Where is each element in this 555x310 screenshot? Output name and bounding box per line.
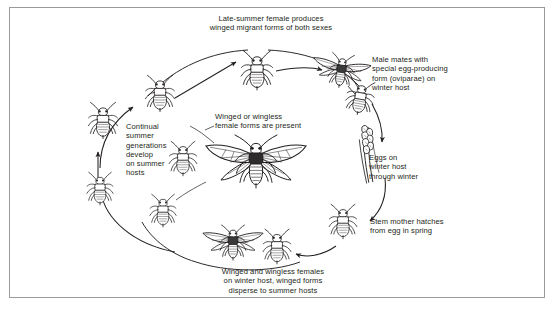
label-winged-or-wingless-females: Winged or wingless female forms are pres… — [215, 112, 333, 131]
leader-line-central-upper — [190, 126, 214, 143]
leader-line-central — [176, 182, 206, 200]
arrow-to-stem-mother — [370, 178, 385, 221]
arrow-to-winter-host-females — [296, 246, 336, 256]
organism-central-winged-female — [206, 135, 306, 188]
organism-summer-pair-right — [150, 194, 176, 227]
label-late-summer-female: Late-summer female produces winged migra… — [186, 14, 356, 33]
organism-top-wingless-female — [241, 51, 273, 90]
arrow-to-eggs — [372, 104, 382, 142]
organism-summer-wingless-lower — [87, 172, 113, 205]
organism-summer-wingless-upper — [88, 102, 117, 138]
organism-summer-winged-migrant — [145, 75, 174, 111]
label-winged-wingless-females: Winged and wingless females on winter ho… — [186, 267, 360, 295]
diagram-canvas — [0, 0, 555, 310]
organism-stem-mother — [329, 204, 357, 238]
aphid-life-cycle-figure: Late-summer female produces winged migra… — [0, 0, 555, 310]
label-continual-summer-generations: Continual summer generations develop on … — [126, 122, 178, 178]
label-eggs-winter-host: Eggs on winter host through winter — [369, 153, 455, 181]
organism-winged-male — [310, 50, 372, 91]
label-male-mates: Male mates with special egg-producing fo… — [372, 55, 484, 92]
cycle-arc-bottom-left — [142, 222, 196, 262]
organism-bottom-winged-female — [203, 225, 263, 260]
label-stem-mother: Stem mother hatches from egg in spring — [370, 217, 476, 236]
leader-line-label-center — [205, 126, 214, 130]
arrow-to-winged-migrants — [276, 68, 322, 71]
organism-bottom-wingless-female — [263, 229, 291, 264]
